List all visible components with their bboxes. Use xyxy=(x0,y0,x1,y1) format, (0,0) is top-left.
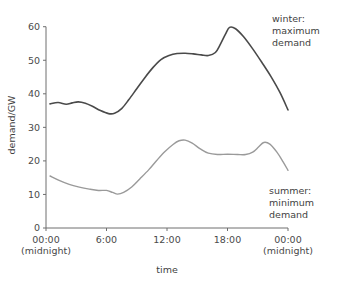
x-tick-sublabel: (midnight) xyxy=(263,245,313,256)
demand-chart: 0102030405060 00:00(midnight)6:0012:0018… xyxy=(0,0,339,281)
legend-label-summer: summer: xyxy=(269,185,311,196)
x-tick-label: 12:00 xyxy=(153,234,180,245)
legend-label-summer: minimum xyxy=(269,197,314,208)
chart-legend: winter:maximumdemandsummer:minimumdemand xyxy=(269,13,320,220)
x-tick-sublabel: (midnight) xyxy=(21,245,71,256)
legend-label-winter: winter: xyxy=(272,13,305,24)
legend-label-summer: demand xyxy=(269,209,308,220)
y-tick-label: 20 xyxy=(28,155,40,166)
series-group xyxy=(50,27,288,194)
y-tick-label: 50 xyxy=(28,55,40,66)
y-axis: 0102030405060 xyxy=(28,21,46,233)
x-tick-label: 18:00 xyxy=(214,234,241,245)
x-tick-label: 00:00 xyxy=(274,234,301,245)
y-tick-label: 0 xyxy=(34,222,40,233)
y-tick-label: 10 xyxy=(28,189,40,200)
x-axis-title: time xyxy=(156,264,178,275)
x-tick-label: 6:00 xyxy=(96,234,117,245)
y-tick-label: 60 xyxy=(28,21,40,32)
chart-canvas: 0102030405060 00:00(midnight)6:0012:0018… xyxy=(0,0,339,281)
y-tick-label: 40 xyxy=(28,88,40,99)
x-axis: 00:00(midnight)6:0012:0018:0000:00(midni… xyxy=(21,228,313,256)
legend-label-winter: demand xyxy=(272,37,311,48)
x-tick-group: 00:00(midnight)6:0012:0018:0000:00(midni… xyxy=(21,228,313,256)
y-axis-title: demand/GW xyxy=(6,95,17,155)
series-line-winter xyxy=(50,27,288,114)
y-tick-group: 0102030405060 xyxy=(28,21,46,233)
legend-label-winter: maximum xyxy=(272,25,320,36)
series-line-summer xyxy=(50,140,288,194)
y-tick-label: 30 xyxy=(28,122,40,133)
x-tick-label: 00:00 xyxy=(32,234,59,245)
